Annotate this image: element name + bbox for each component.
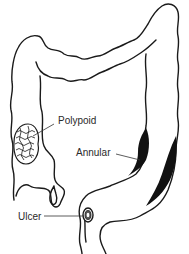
label-ulcer: Ulcer xyxy=(18,212,41,222)
annular-leader-line xyxy=(116,154,140,160)
polypoid-lesion xyxy=(14,124,39,164)
colon-inner-wall-top xyxy=(36,40,156,81)
annular-lesion-outer xyxy=(146,136,177,206)
annular-lesion-inner xyxy=(128,128,149,176)
label-polypoid: Polypoid xyxy=(58,116,96,126)
ulcer-lesion xyxy=(83,208,93,222)
label-annular: Annular xyxy=(76,148,110,158)
